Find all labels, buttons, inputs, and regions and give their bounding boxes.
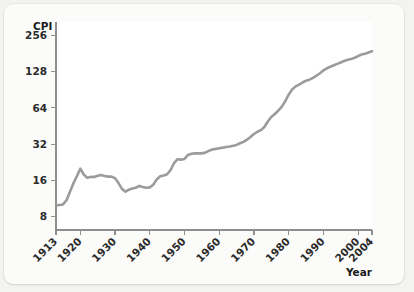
x-tick-label: 1920 xyxy=(55,235,84,264)
y-axis-ticks xyxy=(51,35,56,216)
x-tick-label: 1940 xyxy=(124,235,153,264)
x-tick-label: 1950 xyxy=(159,235,188,264)
y-tick-label: 16 xyxy=(32,174,47,186)
x-tick-label: 1913 xyxy=(30,235,59,264)
x-axis-ticks xyxy=(56,230,372,235)
cpi-series-line xyxy=(56,51,372,205)
x-tick-label: 1990 xyxy=(298,235,327,264)
y-tick-label: 8 xyxy=(40,210,47,222)
x-tick-label: 1930 xyxy=(89,235,118,264)
x-tick-label: 1970 xyxy=(228,235,257,264)
y-tick-label: 128 xyxy=(25,65,47,77)
x-axis-title: Year xyxy=(345,266,373,278)
figure-card: 2561286432168 19131920193019401950196019… xyxy=(4,4,404,284)
x-axis-tick-labels: 1913192019301940195019601970198019902000… xyxy=(30,235,375,264)
x-tick-label: 1980 xyxy=(263,235,292,264)
y-axis-tick-labels: 2561286432168 xyxy=(25,29,47,222)
x-tick-label: 1960 xyxy=(193,235,222,264)
y-axis-title: CPI xyxy=(33,20,52,32)
cpi-line-chart: 2561286432168 19131920193019401950196019… xyxy=(4,4,404,284)
y-tick-label: 32 xyxy=(32,138,47,150)
y-tick-label: 64 xyxy=(32,102,47,114)
